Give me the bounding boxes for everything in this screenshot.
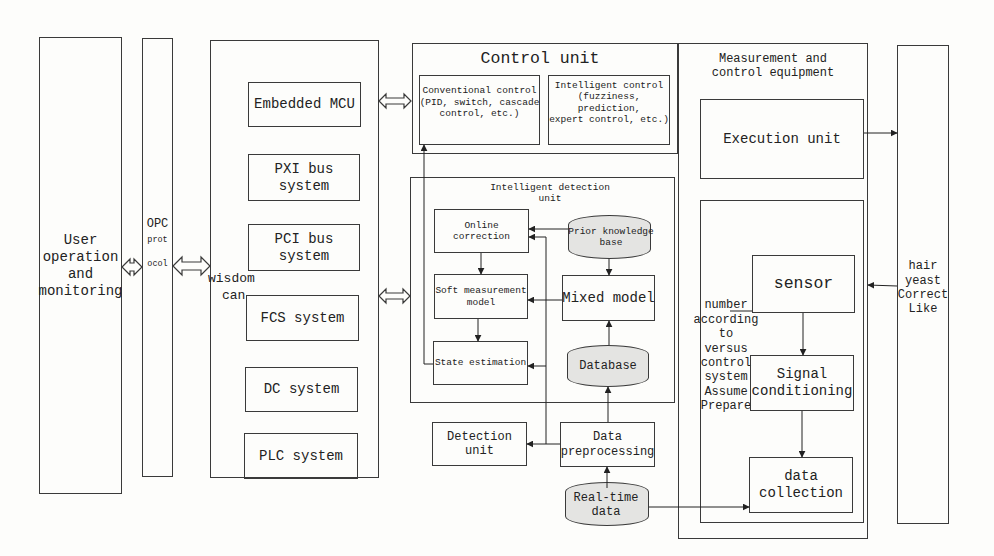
system-label: PLC system [244,433,358,479]
signal-conditioning-label: Signal conditioning [750,355,854,411]
system-label: PCI bus system [248,224,360,271]
conventional-control-label: Conventional control (PID, switch, casca… [419,75,540,130]
system-label: PXI bus system [248,154,360,201]
process-object-label: hair yeast Correct Like [893,250,953,326]
control-unit-title: Control unit [470,47,610,71]
double-arrow-icon [379,289,410,303]
system-label: DC system [245,367,358,412]
data-preprocessing-label: Data preprocessing [560,422,655,467]
sensor-label: sensor [752,255,855,313]
mixed-model-label: Mixed model [562,275,655,321]
opc-label-ocol: ocol [142,258,173,270]
prior-knowledge-label: Prior knowledge base [556,230,666,244]
database-label: Database [567,345,649,387]
data-control-system-label: number according to versus control syste… [696,284,756,428]
equipment-title: Measurement and control equipment [678,48,868,84]
detection-title: Intelligent detection unit [480,186,620,200]
double-arrow-icon [122,259,142,275]
double-arrow-icon [379,94,411,108]
execution-unit-label: Execution unit [700,99,864,179]
opc-label: OPC [142,216,173,232]
soft-measurement-label: Soft measurement model [434,274,528,319]
system-label: Embedded MCU [248,82,361,127]
realtime-data-label: Real-time data [560,497,652,513]
online-correction-label: Online correction [434,209,529,253]
system-label: FCS system [246,295,359,341]
intelligent-control-label: Intelligent control (fuzziness, predicti… [548,75,670,130]
double-arrow-icon [173,257,210,275]
state-estimation-label: State estimation [433,341,528,385]
detection-unit-label: Detection unit [432,422,527,466]
wisdom-label: wisdom [208,271,256,287]
data-collection-label: data collection [749,457,853,513]
opc-label-prot: prot [142,234,173,246]
user-operation-label: User operation and monitoring [39,220,122,312]
